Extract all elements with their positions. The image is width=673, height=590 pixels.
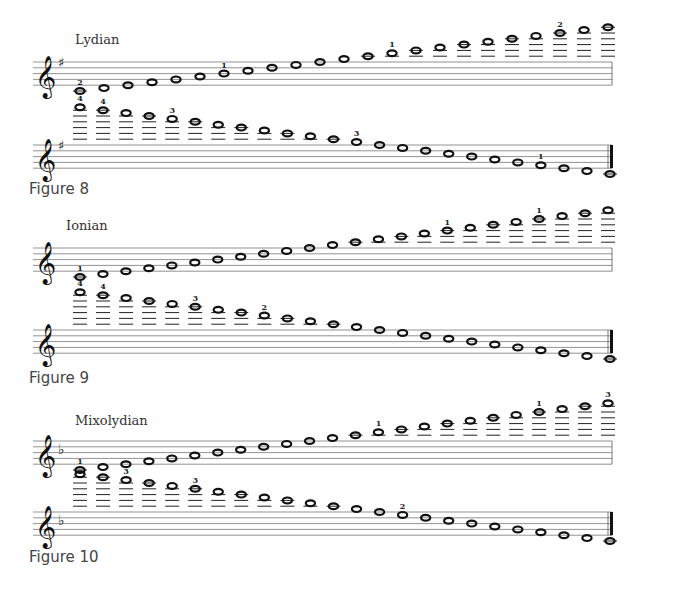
ionian-descending-whole-note-icon: [121, 295, 130, 301]
mixolydian-ascending-whole-note-icon: [512, 412, 521, 418]
mixolydian-ascending-whole-note-icon: [557, 406, 566, 412]
ionian-ascending-whole-note-icon: [557, 213, 566, 219]
mode-title-mixolydian: Mixolydian: [75, 413, 148, 428]
mixolydian-ascending-whole-note-icon: [236, 447, 245, 453]
treble-clef-icon: 𝄞: [35, 139, 56, 182]
mode-title-lydian: Lydian: [75, 32, 119, 47]
figure-caption-9: Figure 9: [29, 369, 89, 387]
ionian-ascending-whole-note-icon: [144, 265, 153, 271]
treble-clef-icon: 𝄞: [35, 324, 56, 367]
flat-icon: ♭: [58, 441, 65, 457]
sharp-icon: ♯: [58, 55, 64, 70]
ionian-descending-whole-note-icon: [306, 318, 315, 324]
figure-caption-10: Figure 10: [29, 548, 99, 566]
mixolydian-descending-whole-note-icon: [306, 500, 315, 506]
fingering-number: 2: [557, 19, 563, 29]
mixolydian-descending-whole-note-icon: [168, 483, 177, 489]
ionian-descending-whole-note-icon: [582, 353, 591, 359]
sharp-icon: ♯: [58, 138, 64, 153]
treble-clef-icon: 𝄞: [35, 242, 56, 285]
fingering-number: 1: [445, 217, 451, 227]
fingering-number: 4: [100, 281, 106, 291]
ionian-ascending-whole-note-icon: [328, 242, 337, 248]
fingering-number: 3: [123, 466, 129, 476]
ionian-descending-whole-note-icon: [444, 336, 453, 342]
lydian-ascending-whole-note-icon: [147, 79, 156, 85]
lydian-ascending-whole-note-icon: [195, 74, 204, 80]
mode-title-ionian: Ionian: [66, 218, 108, 233]
mixolydian-ascending-whole-note-icon: [144, 458, 153, 464]
lydian-ascending-whole-note-icon: [531, 33, 540, 39]
mixolydian-descending-whole-note-icon: [490, 524, 499, 530]
ionian-descending-whole-note-icon: [214, 307, 223, 313]
treble-clef-icon: 𝄞: [35, 435, 56, 478]
mixolydian-descending-whole-note-icon: [582, 535, 591, 541]
lydian-ascending-whole-note-icon: [339, 56, 348, 62]
mixolydian-descending-whole-note-icon: [352, 506, 361, 512]
treble-clef-icon: 𝄞: [35, 56, 56, 99]
ionian-descending-whole-note-icon: [536, 347, 545, 353]
fingering-number: 3: [354, 128, 360, 138]
mixolydian-descending-whole-note-icon: [75, 471, 84, 477]
ionian-descending-whole-note-icon: [398, 330, 407, 336]
fingering-number: 2: [262, 302, 268, 312]
lydian-descending-whole-note-icon: [260, 128, 269, 134]
score: 𝄞♯𝄞♯211244331𝄞𝄞1114432𝄞♭𝄞♭1113332: [0, 0, 673, 590]
fingering-number: 3: [192, 293, 198, 303]
ionian-ascending-whole-note-icon: [512, 219, 521, 225]
fingering-number: 3: [605, 389, 611, 399]
fingering-number: 1: [536, 205, 542, 215]
ionian-ascending-whole-note-icon: [282, 248, 291, 254]
lydian-descending-whole-note-icon: [214, 122, 223, 128]
mixolydian-ascending-whole-note-icon: [190, 453, 199, 459]
mixolydian-ascending-whole-note-icon: [420, 424, 429, 430]
mixolydian-descending-whole-note-icon: [121, 477, 130, 483]
mixolydian-descending-whole-note-icon: [398, 512, 407, 518]
ionian-ascending-whole-note-icon: [374, 236, 383, 242]
fingering-number: 4: [100, 96, 106, 106]
mixolydian-ascending-whole-note-icon: [603, 400, 612, 406]
mixolydian-ascending-whole-note-icon: [466, 418, 475, 424]
lydian-ascending-whole-note-icon: [579, 27, 588, 33]
final-barline-icon: [610, 512, 613, 535]
mixolydian-descending-whole-note-icon: [260, 495, 269, 501]
lydian-descending-whole-note-icon: [121, 110, 130, 116]
mixolydian-descending-whole-note-icon: [536, 529, 545, 535]
treble-clef-icon: 𝄞: [35, 506, 56, 549]
lydian-ascending-whole-note-icon: [435, 45, 444, 51]
lydian-descending-whole-note-icon: [398, 145, 407, 151]
fingering-number: 3: [192, 475, 198, 485]
ionian-descending-whole-note-icon: [352, 324, 361, 330]
ionian-ascending-whole-note-icon: [190, 260, 199, 266]
fingering-number: 2: [400, 501, 406, 511]
lydian-ascending-whole-note-icon: [483, 39, 492, 45]
lydian-descending-whole-note-icon: [490, 157, 499, 163]
ionian-ascending-whole-note-icon: [420, 231, 429, 237]
ionian-ascending-whole-note-icon: [466, 225, 475, 231]
ionian-ascending-whole-note-icon: [236, 254, 245, 260]
ionian-descending-whole-note-icon: [168, 301, 177, 307]
lydian-descending-whole-note-icon: [352, 139, 361, 145]
lydian-descending-whole-note-icon: [168, 116, 177, 122]
ionian-ascending-whole-note-icon: [98, 271, 107, 277]
ionian-ascending-whole-note-icon: [603, 207, 612, 213]
fingering-number: 1: [77, 263, 83, 273]
fingering-number: 1: [77, 456, 83, 466]
figure-caption-8: Figure 8: [29, 180, 89, 198]
lydian-descending-whole-note-icon: [75, 104, 84, 110]
fingering-number: 1: [389, 39, 395, 49]
fingering-number: 1: [538, 151, 544, 161]
lydian-ascending-whole-note-icon: [243, 68, 252, 74]
final-barline-icon: [610, 145, 613, 168]
mixolydian-ascending-whole-note-icon: [374, 429, 383, 435]
fingering-number: 1: [221, 60, 227, 70]
fingering-number: 1: [536, 398, 542, 408]
fingering-number: 3: [169, 105, 175, 115]
mixolydian-ascending-whole-note-icon: [328, 435, 337, 441]
lydian-ascending-whole-note-icon: [99, 85, 108, 91]
mixolydian-ascending-whole-note-icon: [282, 441, 291, 447]
fingering-number: 4: [77, 93, 83, 103]
fingering-number: 4: [77, 278, 83, 288]
mixolydian-ascending-whole-note-icon: [98, 464, 107, 470]
lydian-ascending-whole-note-icon: [291, 62, 300, 68]
